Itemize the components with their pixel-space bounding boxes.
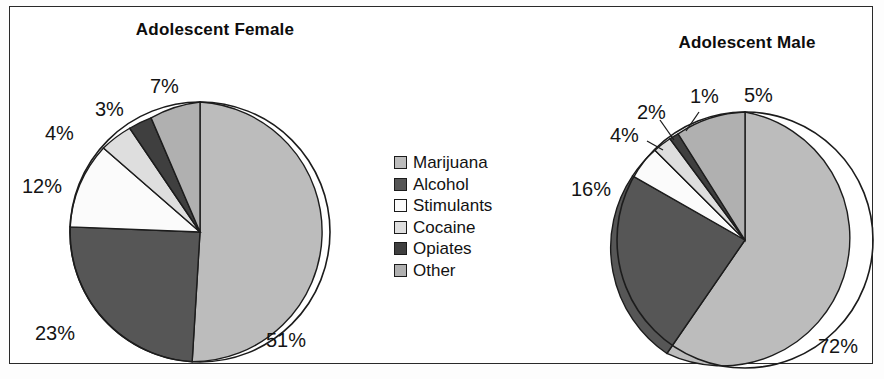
pie-chart-female bbox=[56, 88, 346, 370]
legend-item-marijuana[interactable]: Marijuana bbox=[394, 152, 492, 174]
pie-slices-male bbox=[611, 112, 850, 366]
legend-label-other: Other bbox=[413, 262, 456, 279]
chart-title-male: Adolescent Male bbox=[612, 33, 882, 53]
pie-label-female-other: 7% bbox=[150, 75, 179, 98]
legend-label-marijuana: Marijuana bbox=[413, 154, 488, 171]
legend-item-opiates[interactable]: Opiates bbox=[394, 238, 492, 260]
legend-swatch-alcohol bbox=[394, 178, 407, 191]
pie-label-female-cocaine: 4% bbox=[45, 122, 74, 145]
pie-label-male-other: 5% bbox=[744, 84, 773, 107]
pie-label-male-alcohol: 16% bbox=[571, 178, 611, 201]
legend-swatch-marijuana bbox=[394, 156, 407, 169]
legend-item-alcohol[interactable]: Alcohol bbox=[394, 174, 492, 196]
legend-label-cocaine: Cocaine bbox=[413, 219, 475, 236]
pie-label-male-marijuana: 72% bbox=[818, 335, 858, 358]
pie-label-female-opiates: 3% bbox=[95, 98, 124, 121]
legend-item-other[interactable]: Other bbox=[394, 260, 492, 282]
pie-slice-female-marijuana[interactable] bbox=[192, 102, 322, 362]
pie-slice-female-alcohol[interactable] bbox=[70, 227, 200, 362]
pie-label-male-opiates: 1% bbox=[690, 85, 719, 108]
legend-item-cocaine[interactable]: Cocaine bbox=[394, 217, 492, 239]
pie-label-male-cocaine: 2% bbox=[637, 101, 666, 124]
legend-swatch-opiates bbox=[394, 242, 407, 255]
legend: Marijuana Alcohol Stimulants Cocaine Opi… bbox=[394, 152, 492, 281]
pie-label-female-alcohol: 23% bbox=[35, 322, 75, 345]
chart-title-female: Adolescent Female bbox=[70, 20, 360, 40]
legend-label-alcohol: Alcohol bbox=[413, 176, 469, 193]
legend-label-stimulants: Stimulants bbox=[413, 197, 492, 214]
figure-container: Adolescent Female Adolescent Male 51% 23… bbox=[0, 0, 884, 379]
legend-item-stimulants[interactable]: Stimulants bbox=[394, 195, 492, 217]
pie-label-female-marijuana: 51% bbox=[266, 329, 306, 352]
pie-label-male-stimulants: 4% bbox=[610, 124, 639, 147]
legend-swatch-other bbox=[394, 264, 407, 277]
legend-swatch-cocaine bbox=[394, 221, 407, 234]
legend-label-opiates: Opiates bbox=[413, 240, 472, 257]
pie-label-female-stimulants: 12% bbox=[22, 175, 62, 198]
legend-swatch-stimulants bbox=[394, 199, 407, 212]
